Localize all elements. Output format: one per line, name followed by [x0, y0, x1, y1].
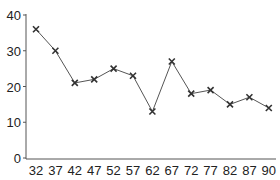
x-marker-icon: [266, 105, 272, 111]
x-tick-label: 77: [203, 163, 217, 178]
x-marker-icon: [169, 58, 175, 64]
x-tick-label: 42: [68, 163, 82, 178]
y-tick-label: 0: [14, 151, 21, 166]
data-series: [33, 26, 272, 114]
x-marker-icon: [227, 101, 233, 107]
x-tick-label: 47: [87, 163, 101, 178]
y-tick-label: 30: [7, 44, 21, 59]
x-tick-label: 87: [242, 163, 256, 178]
y-tick-label: 20: [7, 80, 21, 95]
x-ticks: 32374247525762677277828790: [29, 163, 276, 178]
x-tick-label: 67: [165, 163, 179, 178]
x-tick-label: 32: [29, 163, 43, 178]
x-tick-label: 82: [223, 163, 237, 178]
y-ticks: 010203040: [7, 8, 26, 166]
x-tick-label: 57: [126, 163, 140, 178]
x-tick-label: 52: [106, 163, 120, 178]
x-tick-label: 37: [48, 163, 62, 178]
line-chart: 010203040 32374247525762677277828790: [0, 0, 280, 180]
y-tick-label: 40: [7, 8, 21, 23]
series-line: [36, 29, 269, 111]
x-marker-icon: [130, 73, 136, 79]
y-tick-label: 10: [7, 115, 21, 130]
x-marker-icon: [149, 109, 155, 115]
x-marker-icon: [33, 26, 39, 32]
x-tick-label: 62: [145, 163, 159, 178]
x-tick-label: 72: [184, 163, 198, 178]
axes: [26, 14, 276, 159]
x-marker-icon: [246, 94, 252, 100]
x-marker-icon: [111, 66, 117, 72]
x-marker-icon: [52, 48, 58, 54]
x-tick-label: 90: [262, 163, 276, 178]
